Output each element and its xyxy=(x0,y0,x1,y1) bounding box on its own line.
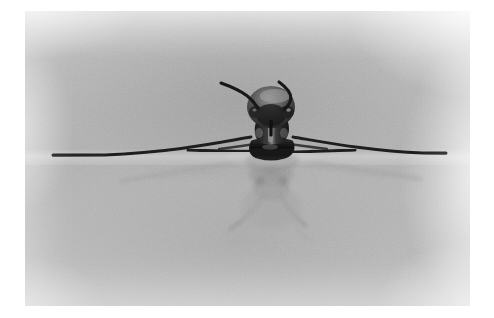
photograph-water-strider xyxy=(25,11,470,306)
print-vignette xyxy=(25,11,470,306)
screenshot-canvas xyxy=(0,0,494,318)
